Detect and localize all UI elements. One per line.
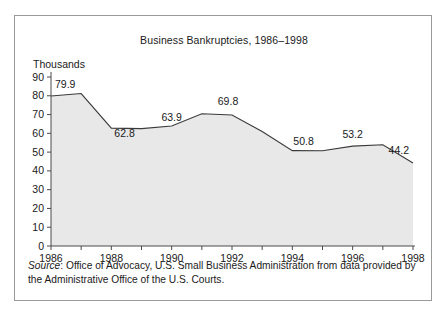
y-tick-label: 30: [32, 183, 44, 195]
data-point-label: 53.2: [342, 128, 363, 140]
area-series: [51, 94, 413, 246]
source-label: Source: [28, 260, 60, 271]
y-tick-label: 20: [32, 202, 44, 214]
y-axis-ticks: 0102030405060708090: [32, 71, 51, 252]
area-fill: [51, 94, 413, 246]
data-point-label: 62.8: [114, 127, 135, 139]
data-point-label: 69.8: [218, 95, 239, 107]
data-point-label: 50.8: [293, 135, 314, 147]
source-note: Source: Office of Advocacy, U.S. Small B…: [28, 259, 422, 287]
data-point-label: 79.9: [55, 78, 76, 90]
y-tick-label: 70: [32, 108, 44, 120]
y-tick-label: 80: [32, 89, 44, 101]
y-tick-label: 10: [32, 221, 44, 233]
data-point-label: 44.2: [389, 144, 410, 156]
y-tick-label: 60: [32, 127, 44, 139]
source-text: Office of Advocacy, U.S. Small Business …: [28, 260, 416, 285]
y-tick-label: 90: [32, 71, 44, 83]
y-tick-label: 50: [32, 146, 44, 158]
y-tick-label: 40: [32, 164, 44, 176]
y-tick-label: 0: [38, 240, 44, 252]
data-point-label: 63.9: [161, 111, 182, 123]
figure-frame: Business Bankruptcies, 1986–1998 Thousan…: [14, 15, 432, 301]
